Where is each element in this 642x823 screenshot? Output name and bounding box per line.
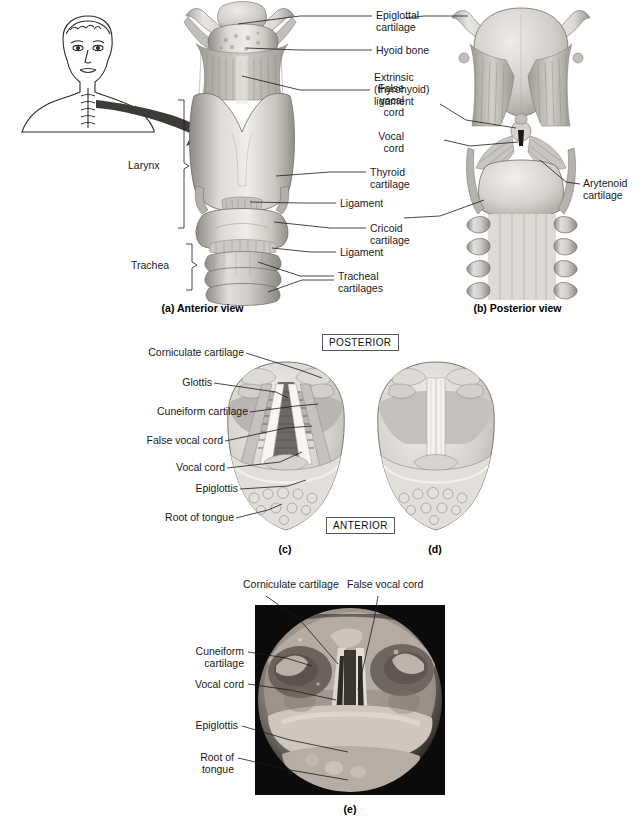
panel-e-photo <box>238 596 445 795</box>
label-epiglottis-e: Epiglottis <box>120 719 238 731</box>
label-glottis-c: Glottis <box>86 376 212 388</box>
label-vocal-cord-b: Vocal cord <box>344 130 404 154</box>
label-ligament-upper: Ligament <box>340 197 383 209</box>
label-thyroid-cartilage: Thyroid cartilage <box>370 166 410 190</box>
caption-panel-a: (a) Anterior view <box>140 302 265 314</box>
orientation-label-anterior: ANTERIOR <box>326 517 395 534</box>
label-tracheal-cartilages: Tracheal cartilages <box>338 270 383 294</box>
caption-panel-b: (b) Posterior view <box>455 302 580 314</box>
label-corniculate-cartilage-c: Corniculate cartilage <box>86 346 244 358</box>
label-ligament-lower: Ligament <box>340 246 383 258</box>
label-root-of-tongue-e: Root of tongue <box>120 751 234 775</box>
head-inset-illustration <box>22 16 154 132</box>
panel-d-illustration <box>378 362 495 530</box>
label-larynx: Larynx <box>128 159 160 171</box>
figure-plate: Epiglottal cartilage Hyoid bone Extrinsi… <box>0 0 642 823</box>
caption-panel-e: (e) <box>330 803 370 815</box>
label-epiglottal-cartilage: Epiglottal cartilage <box>376 9 419 33</box>
label-cricoid-cartilage: Cricoid cartilage <box>370 222 410 246</box>
label-corniculate-cartilage-e: Corniculate cartilage <box>243 578 339 590</box>
label-hyoid-bone: Hyoid bone <box>376 44 429 56</box>
label-epiglottis-c: Epiglottis <box>86 482 238 494</box>
caption-panel-c: (c) <box>265 543 305 555</box>
label-vocal-cord-c: Vocal cord <box>86 461 225 473</box>
panel-a-illustration <box>178 2 296 306</box>
label-cuneiform-cartilage-e: Cuneiform cartilage <box>120 645 244 669</box>
caption-panel-d: (d) <box>415 543 455 555</box>
label-cuneiform-cartilage-c: Cuneiform cartilage <box>86 405 248 417</box>
label-false-vocal-cord-b: False vocal cord <box>344 82 404 119</box>
panel-b-illustration <box>452 8 590 300</box>
orientation-label-posterior: POSTERIOR <box>322 334 399 351</box>
label-arytenoid-cartilage: Arytenoid cartilage <box>583 177 627 201</box>
label-trachea: Trachea <box>131 259 169 271</box>
label-root-of-tongue-c: Root of tongue <box>86 511 234 523</box>
label-false-vocal-cord-c: False vocal cord <box>86 434 223 446</box>
label-false-vocal-cord-e: False vocal cord <box>347 578 423 590</box>
label-vocal-cord-e: Vocal cord <box>120 678 244 690</box>
